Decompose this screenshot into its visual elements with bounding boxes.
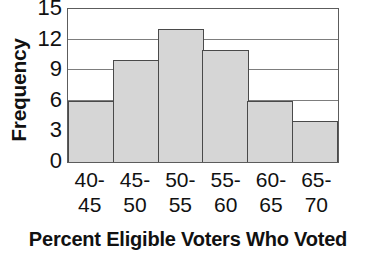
y-axis-tick-label: 15	[2, 0, 62, 19]
histogram-bar	[113, 60, 159, 162]
x-axis-tick-label-line1: 60-	[248, 167, 293, 192]
plot-area	[67, 8, 339, 163]
x-axis-tick-label-line2: 45	[67, 192, 112, 217]
histogram-bar	[292, 121, 338, 162]
histogram-bar	[158, 29, 204, 162]
histogram-figure: Frequency 03691215 40-4545-5050-5555-606…	[0, 0, 376, 261]
histogram-bar	[247, 101, 293, 162]
bar-series	[68, 9, 338, 162]
x-axis-tick-label-line1: 40-	[67, 167, 112, 192]
x-axis-tick-label: 65-70	[294, 167, 339, 217]
x-axis-tick-labels: 40-4545-5050-5555-6060-6565-70	[67, 167, 339, 217]
x-axis-tick-label-line1: 50-	[158, 167, 203, 192]
x-axis-tick-label: 40-45	[67, 167, 112, 217]
y-axis-tick-label: 3	[2, 119, 62, 141]
y-axis-tick-label: 0	[2, 150, 62, 172]
y-axis-tick-label: 6	[2, 89, 62, 111]
x-axis-tick-label: 55-60	[203, 167, 248, 217]
histogram-bar	[68, 101, 114, 162]
y-axis-tick-labels: 03691215	[0, 0, 62, 172]
y-axis-tick-label: 12	[2, 28, 62, 50]
x-axis-tick-label-line2: 55	[158, 192, 203, 217]
x-axis-tick-label-line2: 60	[203, 192, 248, 217]
x-axis-tick-label-line2: 70	[294, 192, 339, 217]
x-axis-title: Percent Eligible Voters Who Voted	[0, 228, 376, 251]
x-axis-tick-label-line1: 45-	[112, 167, 157, 192]
x-axis-tick-label-line2: 50	[112, 192, 157, 217]
x-axis-tick-label: 45-50	[112, 167, 157, 217]
x-axis-tick-label-line1: 65-	[294, 167, 339, 192]
histogram-bar	[202, 50, 248, 162]
x-axis-tick-label-line1: 55-	[203, 167, 248, 192]
x-axis-tick-label: 60-65	[248, 167, 293, 217]
y-axis-tick-label: 9	[2, 58, 62, 80]
x-axis-tick-label: 50-55	[158, 167, 203, 217]
x-axis-tick-label-line2: 65	[248, 192, 293, 217]
